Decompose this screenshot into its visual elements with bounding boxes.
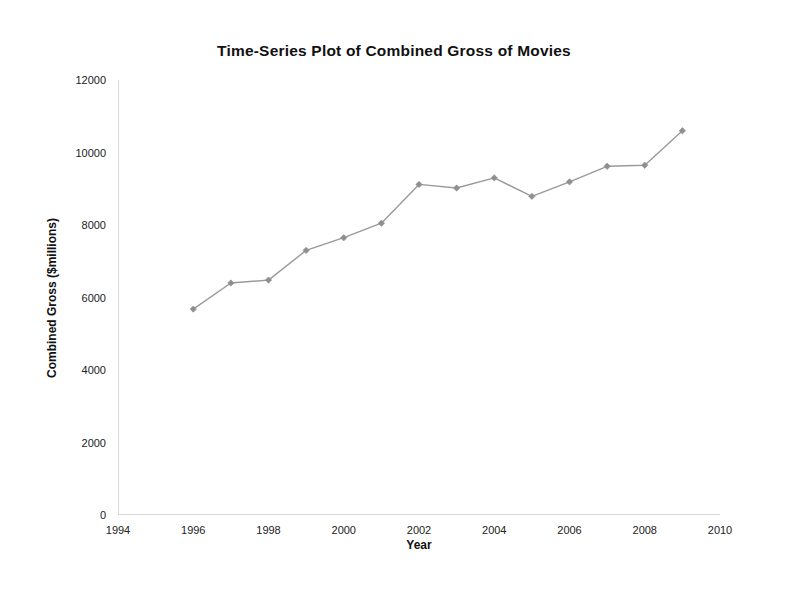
x-axis-tick-label: 2000 xyxy=(332,524,356,536)
series-line-combined-gross xyxy=(193,131,682,309)
x-axis-tick-label: 2004 xyxy=(482,524,506,536)
chart-figure: Time-Series Plot of Combined Gross of Mo… xyxy=(0,0,788,591)
data-point-marker xyxy=(604,163,610,169)
x-axis-tick-label: 2008 xyxy=(633,524,657,536)
x-axis-tick-label: 1994 xyxy=(106,524,130,536)
chart-title: Time-Series Plot of Combined Gross of Mo… xyxy=(0,42,788,60)
data-point-marker xyxy=(341,234,347,240)
plot-area xyxy=(118,80,720,515)
x-axis-tick-label: 1998 xyxy=(256,524,280,536)
data-point-marker xyxy=(453,185,459,191)
data-point-marker xyxy=(529,193,535,199)
x-axis-title: Year xyxy=(359,538,479,552)
data-point-marker xyxy=(566,179,572,185)
x-axis-tick-label: 2002 xyxy=(407,524,431,536)
x-axis-tick-label: 2006 xyxy=(557,524,581,536)
y-axis-tick-label: 10000 xyxy=(0,147,106,159)
data-point-marker xyxy=(491,175,497,181)
y-axis-tick-label: 0 xyxy=(0,509,106,521)
x-axis-tick-label: 2010 xyxy=(708,524,732,536)
y-axis-tick-label: 2000 xyxy=(0,437,106,449)
x-axis-tick-label: 1996 xyxy=(181,524,205,536)
y-axis-tick-label: 12000 xyxy=(0,74,106,86)
y-axis-title: Combined Gross ($millions) xyxy=(45,218,59,378)
chart-canvas xyxy=(118,80,720,515)
